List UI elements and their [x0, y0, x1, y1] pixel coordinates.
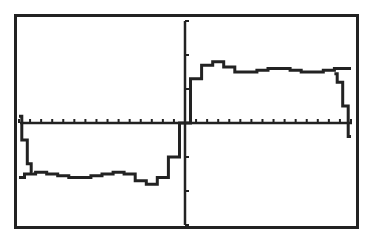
graph-plot [0, 0, 373, 244]
calculator-graph-screen [0, 0, 373, 244]
